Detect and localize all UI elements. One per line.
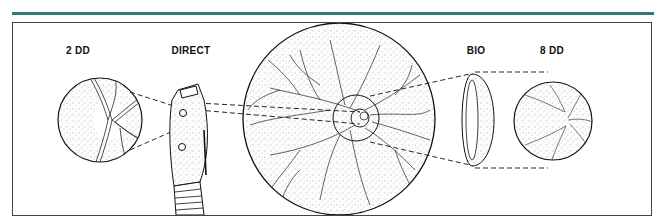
large-fundus-circle <box>243 23 435 215</box>
bio-condensing-lens <box>462 74 494 166</box>
ophthalmoscopy-diagram <box>0 0 668 222</box>
fundus-view-8dd <box>514 82 592 160</box>
direct-ophthalmoscope <box>170 84 208 215</box>
fundus-view-2dd <box>58 78 148 165</box>
